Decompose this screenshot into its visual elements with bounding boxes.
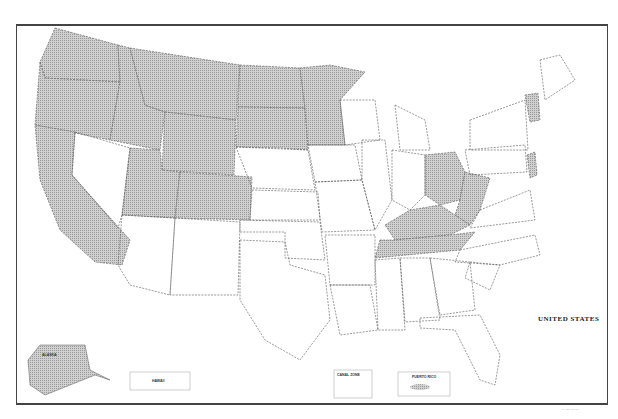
state-iowa bbox=[308, 145, 362, 182]
state-south-carolina bbox=[465, 262, 500, 290]
inset-hawaii: HAWAII bbox=[130, 372, 190, 390]
us-map: ALASKA HAWAII CANAL ZONE PUERTO RICO bbox=[0, 0, 618, 419]
state-illinois bbox=[362, 140, 392, 230]
state-south-dakota bbox=[236, 107, 308, 150]
inset-label-puerto-rico: PUERTO RICO bbox=[412, 375, 437, 379]
inset-alaska: ALASKA bbox=[28, 345, 110, 395]
state-arizona bbox=[118, 215, 175, 295]
inset-canal-zone: CANAL ZONE bbox=[334, 370, 372, 398]
state-georgia bbox=[430, 258, 475, 315]
state-vermont bbox=[525, 93, 540, 122]
state-wyoming bbox=[162, 112, 236, 175]
state-new-mexico bbox=[170, 218, 240, 295]
inset-label-alaska: ALASKA bbox=[42, 353, 57, 357]
state-alabama bbox=[400, 258, 440, 322]
inset-puerto-rico: PUERTO RICO bbox=[398, 372, 450, 396]
state-new-york bbox=[470, 100, 528, 150]
state-ohio bbox=[425, 152, 465, 205]
state-missouri bbox=[315, 180, 375, 232]
inset-label-hawaii: HAWAII bbox=[152, 379, 164, 383]
map-footer-code: -- --- -- --- bbox=[562, 407, 578, 412]
state-kansas bbox=[250, 190, 320, 220]
state-colorado bbox=[175, 172, 252, 220]
state-pennsylvania bbox=[465, 145, 527, 175]
state-arkansas bbox=[325, 235, 375, 285]
state-california bbox=[35, 125, 130, 265]
state-new-jersey bbox=[527, 152, 537, 178]
state-oklahoma bbox=[240, 220, 325, 260]
state-wisconsin bbox=[340, 100, 380, 145]
state-washington bbox=[40, 28, 120, 82]
state-michigan bbox=[395, 105, 430, 150]
state-indiana bbox=[392, 150, 425, 210]
map-title: UNITED STATES bbox=[538, 315, 599, 323]
state-minnesota bbox=[300, 65, 365, 145]
state-maine bbox=[540, 55, 575, 100]
state-louisiana bbox=[330, 285, 378, 335]
inset-label-canal-zone: CANAL ZONE bbox=[337, 373, 361, 377]
state-mississippi bbox=[375, 258, 405, 330]
state-north-dakota bbox=[238, 65, 305, 108]
